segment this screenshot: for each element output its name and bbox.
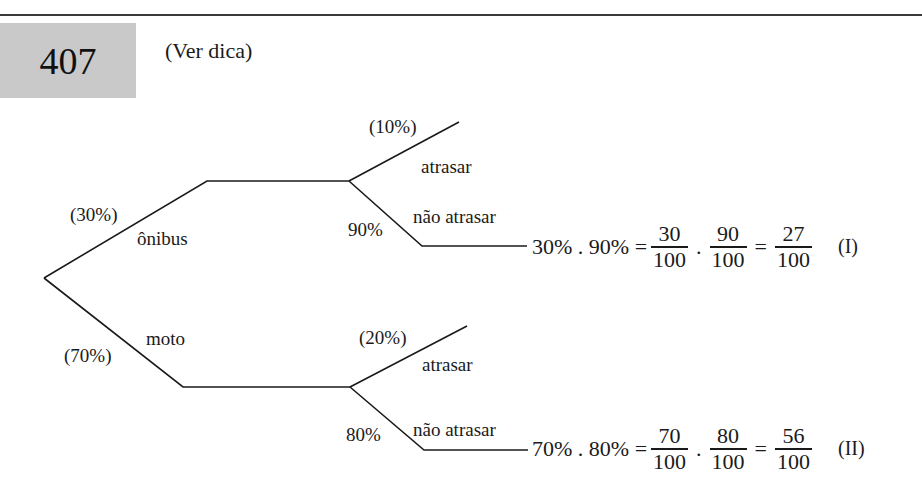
- equation-2-fraction-1: 70 100: [651, 424, 688, 474]
- numerator: 56: [780, 424, 806, 448]
- onibus-label: ônibus: [137, 229, 188, 248]
- denominator: 100: [710, 450, 747, 474]
- numerator: 70: [657, 424, 683, 448]
- onibus-atrasar-label: atrasar: [421, 157, 472, 176]
- denominator: 100: [775, 450, 812, 474]
- numerator: 80: [715, 424, 741, 448]
- equation-1-result: 27 100: [775, 222, 812, 272]
- equals-sign: =: [755, 234, 767, 260]
- equation-2: 70% . 80% = 70 100 . 80 100 = 56 100 (II…: [532, 424, 865, 474]
- equals-sign: =: [755, 436, 767, 462]
- denominator: 100: [651, 450, 688, 474]
- equation-1-lhs: 30% . 90% =: [532, 234, 647, 260]
- moto-atrasar-probability: (20%): [359, 328, 406, 347]
- equation-2-result: 56 100: [775, 424, 812, 474]
- denominator: 100: [775, 248, 812, 272]
- branch-moto: [44, 278, 350, 387]
- equation-1: 30% . 90% = 30 100 . 90 100 = 27 100 (I): [532, 222, 858, 272]
- onibus-atrasar-probability: (10%): [369, 117, 416, 136]
- equation-1-fraction-1: 30 100: [651, 222, 688, 272]
- equation-2-lhs: 70% . 80% =: [532, 436, 647, 462]
- moto-nao-atrasar-label: não atrasar: [413, 420, 496, 439]
- moto-probability: (70%): [64, 346, 111, 365]
- moto-nao-atrasar-probability: 80%: [346, 425, 381, 444]
- dot-operator: .: [696, 436, 702, 462]
- denominator: 100: [651, 248, 688, 272]
- numerator: 27: [780, 222, 806, 246]
- branch-onibus: [44, 181, 349, 278]
- onibus-nao-atrasar-label: não atrasar: [413, 207, 496, 226]
- onibus-probability: (30%): [70, 205, 117, 224]
- equation-1-fraction-2: 90 100: [710, 222, 747, 272]
- numerator: 30: [657, 222, 683, 246]
- moto-label: moto: [146, 329, 185, 348]
- equation-2-fraction-2: 80 100: [710, 424, 747, 474]
- denominator: 100: [710, 248, 747, 272]
- equation-1-tag: (I): [838, 235, 858, 258]
- moto-atrasar-label: atrasar: [422, 355, 473, 374]
- equation-2-tag: (II): [838, 437, 865, 460]
- dot-operator: .: [696, 234, 702, 260]
- numerator: 90: [715, 222, 741, 246]
- onibus-nao-atrasar-probability: 90%: [348, 220, 383, 239]
